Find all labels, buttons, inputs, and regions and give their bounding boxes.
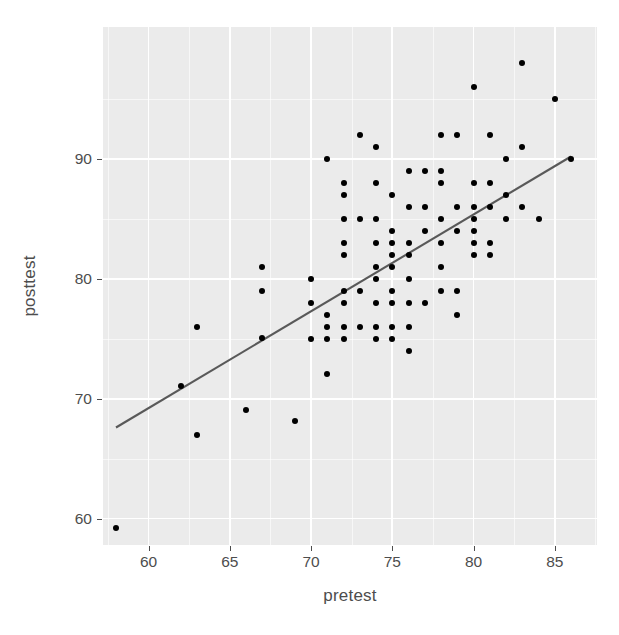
x-tick-mark [474, 546, 475, 551]
scatter-point [308, 300, 314, 306]
scatter-point [471, 240, 477, 246]
y-tick-mark [97, 279, 102, 280]
scatter-point [406, 204, 412, 210]
scatter-point [357, 324, 363, 330]
scatter-point [406, 240, 412, 246]
scatter-point [406, 276, 412, 282]
x-tick-label: 70 [281, 553, 341, 571]
scatter-point [373, 264, 379, 270]
scatter-point [471, 228, 477, 234]
y-tick-mark [97, 399, 102, 400]
scatter-point [373, 336, 379, 342]
scatter-point [357, 132, 363, 138]
scatter-point [568, 156, 574, 162]
scatter-point [373, 180, 379, 186]
scatter-point [422, 300, 428, 306]
scatter-point [438, 216, 444, 222]
x-tick-label: 75 [362, 553, 422, 571]
scatter-point [438, 180, 444, 186]
scatter-point [194, 432, 200, 438]
scatter-point [406, 252, 412, 258]
scatter-point [243, 407, 249, 413]
y-tick-mark [97, 519, 102, 520]
regression-line [103, 27, 597, 545]
scatter-point [422, 228, 428, 234]
scatter-point [389, 324, 395, 330]
scatter-point [422, 168, 428, 174]
scatter-point [373, 240, 379, 246]
y-axis-title: posttest [10, 0, 50, 572]
x-tick-mark [311, 546, 312, 551]
scatter-point [259, 335, 265, 341]
x-tick-mark [392, 546, 393, 551]
scatter-point [373, 216, 379, 222]
scatter-point [341, 216, 347, 222]
scatter-point [373, 324, 379, 330]
scatter-point [341, 192, 347, 198]
y-tick-label: 90 [52, 149, 92, 169]
x-tick-label: 80 [444, 553, 504, 571]
x-axis-title: pretest [103, 586, 597, 606]
scatter-point [373, 144, 379, 150]
scatter-point [503, 156, 509, 162]
scatter-point [357, 288, 363, 294]
scatter-point [487, 204, 493, 210]
scatter-point [341, 336, 347, 342]
y-tick-mark [97, 159, 102, 160]
x-tick-mark [555, 546, 556, 551]
scatter-point [341, 252, 347, 258]
scatter-point [308, 276, 314, 282]
scatter-point [178, 383, 184, 389]
scatter-point [373, 276, 379, 282]
scatter-point [487, 132, 493, 138]
scatter-point [324, 312, 330, 318]
y-tick-label: 70 [52, 389, 92, 409]
x-tick-label: 65 [200, 553, 260, 571]
scatter-point [471, 84, 477, 90]
scatter-point [194, 324, 200, 330]
scatter-point [324, 324, 330, 330]
scatter-point [471, 180, 477, 186]
scatter-point [438, 168, 444, 174]
scatter-point [471, 204, 477, 210]
scatter-point [438, 288, 444, 294]
scatter-point [357, 216, 363, 222]
scatter-point [373, 300, 379, 306]
scatter-point [308, 336, 314, 342]
scatter-point [487, 252, 493, 258]
scatter-point [471, 216, 477, 222]
scatter-point [503, 192, 509, 198]
scatter-plot-figure: posttest 606570758085 60708090 pretest [0, 0, 619, 635]
scatter-point [422, 204, 428, 210]
y-tick-label: 80 [52, 269, 92, 289]
scatter-point [406, 324, 412, 330]
scatter-point [406, 168, 412, 174]
scatter-point [341, 240, 347, 246]
scatter-point [552, 96, 558, 102]
x-tick-mark [149, 546, 150, 551]
scatter-point [438, 264, 444, 270]
scatter-point [324, 336, 330, 342]
scatter-point [503, 216, 509, 222]
scatter-point [406, 348, 412, 354]
scatter-point [406, 300, 412, 306]
scatter-point [324, 371, 330, 377]
scatter-point [389, 336, 395, 342]
y-tick-label: 60 [52, 509, 92, 529]
x-tick-label: 85 [525, 553, 585, 571]
scatter-point [438, 132, 444, 138]
scatter-point [341, 300, 347, 306]
scatter-point [536, 216, 542, 222]
scatter-point [454, 312, 460, 318]
scatter-point [438, 240, 444, 246]
plot-panel [103, 27, 597, 545]
scatter-point [471, 252, 477, 258]
x-tick-label: 60 [119, 553, 179, 571]
x-tick-mark [230, 546, 231, 551]
scatter-point [341, 324, 347, 330]
scatter-point [341, 288, 347, 294]
scatter-point [487, 180, 493, 186]
scatter-point [341, 180, 347, 186]
scatter-point [487, 240, 493, 246]
